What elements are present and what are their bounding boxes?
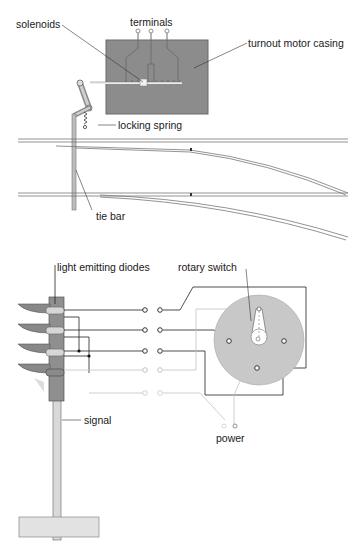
label-signal: signal — [84, 414, 111, 426]
power-terminal-2 — [233, 424, 237, 428]
contacts — [143, 308, 163, 396]
label-locking-spring: locking spring — [118, 119, 182, 131]
label-solenoids: solenoids — [16, 18, 60, 30]
plunger — [140, 79, 147, 86]
power-terminal-1 — [222, 424, 226, 428]
terminal-2 — [149, 29, 153, 33]
rotary-switch — [214, 295, 304, 385]
led-2 — [46, 327, 64, 334]
motor-casing — [106, 40, 208, 114]
spring-icon — [84, 112, 87, 124]
track — [18, 139, 348, 240]
led-4 — [46, 369, 64, 376]
signal-base — [19, 517, 99, 537]
terminal-1 — [136, 29, 140, 33]
label-casing: turnout motor casing — [248, 37, 344, 49]
label-power: power — [216, 432, 245, 444]
label-rotary-switch: rotary switch — [178, 261, 237, 273]
label-tie-bar: tie bar — [96, 210, 125, 222]
label-leds: light emitting diodes — [57, 261, 150, 273]
terminal-3 — [165, 29, 169, 33]
label-terminals: terminals — [130, 16, 173, 28]
led-1 — [46, 307, 64, 314]
led-3 — [46, 349, 64, 356]
